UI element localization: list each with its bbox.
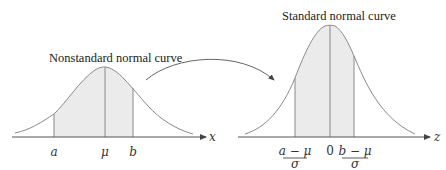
right-title: Standard normal curve <box>282 9 396 23</box>
z-axis-label: z <box>433 130 441 144</box>
tick-label-lower-numerator: a − μ <box>279 144 312 158</box>
left-shaded-area <box>54 67 133 137</box>
tick-label-b: b <box>129 145 137 159</box>
tick-label-zero: 0 <box>326 144 334 158</box>
x-axis-label: x <box>209 130 216 144</box>
tick-label-mu: μ <box>101 145 109 159</box>
left-title: Nonstandard normal curve <box>49 51 183 65</box>
diagram-canvas: x Nonstandard normal curve a μ b z Stand… <box>0 0 446 170</box>
right-shaded-area <box>295 25 354 137</box>
tick-label-upper-denominator: σ <box>351 157 360 170</box>
tick-label-a: a <box>50 145 57 159</box>
nonstandard-normal-panel: x Nonstandard normal curve a μ b <box>12 51 216 159</box>
tick-label-lower-denominator: σ <box>291 157 300 170</box>
standard-normal-panel: z Standard normal curve a − μ σ 0 b − μ … <box>238 9 441 170</box>
tick-label-upper-numerator: b − μ <box>338 144 371 158</box>
